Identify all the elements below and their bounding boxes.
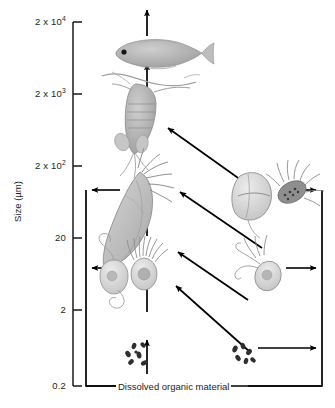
axis-tick-label-20000: 2 x 104: [0, 17, 66, 27]
y-axis: [73, 22, 82, 386]
trophic-arrows-diagonal: [168, 128, 262, 352]
organism-ciliate: [266, 160, 324, 208]
figure-canvas: 2 x 104 2 x 103 2 x 102 20 2 0.2 Size (µ…: [0, 0, 335, 408]
axis-tick-label-2: 2: [0, 305, 66, 315]
organism-appendicularian: [102, 72, 200, 86]
arrow-flagellate-to-ciliate-diag: [178, 252, 248, 300]
axis-tick-label-0.2: 0.2: [0, 381, 66, 391]
axis-title: Size (µm): [12, 167, 23, 237]
axis-tick-label-2000: 2 x 103: [0, 89, 66, 99]
organism-nanoflagellate: [235, 235, 285, 294]
axis-tick-label-20: 20: [0, 233, 66, 243]
arrow-bacteria-to-flagellate: [176, 286, 250, 352]
organism-fish-larva: [116, 40, 214, 69]
organism-bacteria-right: [231, 342, 256, 365]
organism-dinoflagellate: [232, 173, 272, 238]
food-web-diagram: [0, 0, 335, 408]
organism-copepod: [112, 84, 190, 178]
organism-diatom: [103, 148, 174, 268]
organism-bacteria-left: [124, 341, 148, 366]
dissolved-organic-material-label: Dissolved organic material: [116, 382, 231, 392]
axis-tick-label-200: 2 x 102: [0, 161, 66, 171]
